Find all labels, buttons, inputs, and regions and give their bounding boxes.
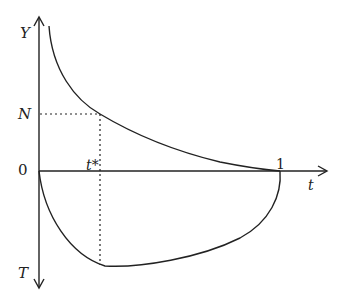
origin-label: 0 [18, 163, 28, 178]
x-axis-label: t [308, 178, 314, 192]
diagram-svg [0, 0, 345, 300]
y-axis [34, 17, 44, 288]
diagram-canvas: Y N 0 t* 1 t T [0, 0, 345, 300]
n-level-label: N [18, 107, 31, 122]
lower-curve [39, 171, 280, 266]
upper-curve [49, 26, 280, 171]
x-end-label: 1 [276, 157, 285, 171]
y-axis-label: Y [20, 26, 30, 41]
t-star-label: t* [86, 158, 99, 172]
t-bottom-label: T [18, 266, 28, 281]
